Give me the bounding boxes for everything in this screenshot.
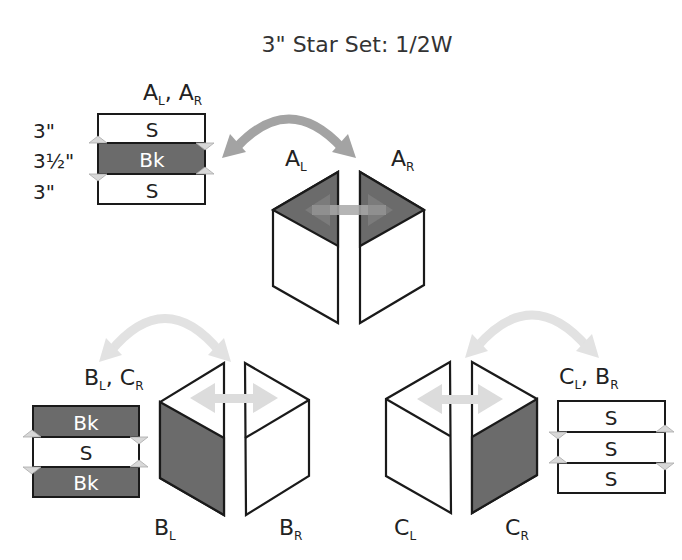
svg-text:S: S	[605, 437, 618, 461]
piece-a-right	[360, 172, 424, 323]
strip-set-a: S Bk S	[89, 114, 214, 204]
svg-text:S: S	[146, 118, 159, 142]
piece-label-b-left: BL	[154, 515, 176, 543]
strip-set-b-label: BL, CR	[84, 365, 144, 393]
strip-set-c: S S S	[549, 401, 674, 493]
svg-text:AL, AR: AL, AR	[143, 80, 202, 108]
piece-label-a-right: AR	[391, 146, 414, 174]
svg-text:S: S	[146, 179, 159, 203]
svg-text:3½": 3½"	[33, 149, 74, 173]
svg-text:S: S	[80, 441, 93, 465]
svg-text:3": 3"	[33, 180, 55, 204]
svg-text:S: S	[605, 467, 618, 491]
piece-label-c-left: CL	[394, 515, 416, 543]
star-set-diagram: 3" Star Set: 1/2W AL, AR S Bk S 3" 3½" 3…	[0, 0, 682, 560]
piece-c-right	[472, 362, 537, 513]
svg-text:3": 3"	[33, 119, 55, 143]
piece-label-b-right: BR	[279, 515, 302, 543]
piece-label-a-left: AL	[285, 146, 307, 174]
svg-text:Bk: Bk	[139, 148, 165, 172]
piece-a-left	[273, 172, 338, 323]
strip-a-size-labels: 3" 3½" 3"	[33, 119, 74, 204]
svg-text:Bk: Bk	[73, 411, 99, 435]
piece-label-c-right: CR	[505, 515, 529, 543]
strip-set-a-label: AL, AR	[143, 80, 202, 108]
swap-arc-c	[465, 315, 599, 358]
svg-text:Bk: Bk	[73, 471, 99, 495]
strip-set-b: Bk S Bk	[23, 406, 148, 497]
swap-arc-b	[99, 319, 231, 363]
strip-set-c-label: CL, BR	[559, 364, 619, 392]
svg-text:S: S	[605, 406, 618, 430]
diagram-title: 3" Star Set: 1/2W	[262, 32, 453, 57]
